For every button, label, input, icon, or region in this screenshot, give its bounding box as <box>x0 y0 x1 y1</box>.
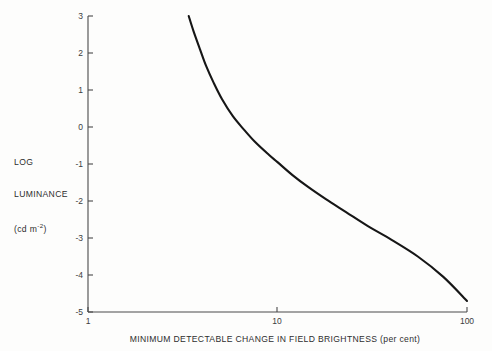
x-axis-ticks <box>88 307 467 312</box>
figure-container: 3 2 1 0 -1 -2 -3 -4 -5 1 10 100 LOG LUMI… <box>0 0 492 351</box>
threshold-curve <box>189 16 467 301</box>
x-axis-tick-labels: 1 10 100 <box>86 316 475 326</box>
y-tick-label: 1 <box>78 85 83 95</box>
y-units-prefix: (cd m <box>14 224 37 234</box>
y-axis-title: LOG LUMINANCE (cd m-2) <box>14 136 90 255</box>
y-tick-label: 0 <box>78 122 83 132</box>
y-units-suffix: ) <box>43 224 46 234</box>
x-tick-label: 1 <box>86 316 91 326</box>
y-tick-label: -4 <box>75 270 83 280</box>
y-tick-label: 2 <box>78 48 83 58</box>
y-axis-title-line2: LUMINANCE <box>14 189 90 200</box>
x-tick-label: 100 <box>460 316 474 326</box>
x-tick-label: 10 <box>272 316 282 326</box>
y-axis-title-units: (cd m-2) <box>14 221 90 234</box>
y-tick-label: 3 <box>78 11 83 21</box>
x-axis-title: MINIMUM DETECTABLE CHANGE IN FIELD BRIGH… <box>0 334 492 345</box>
y-tick-label: -5 <box>75 307 83 317</box>
y-axis-title-line1: LOG <box>14 157 90 168</box>
